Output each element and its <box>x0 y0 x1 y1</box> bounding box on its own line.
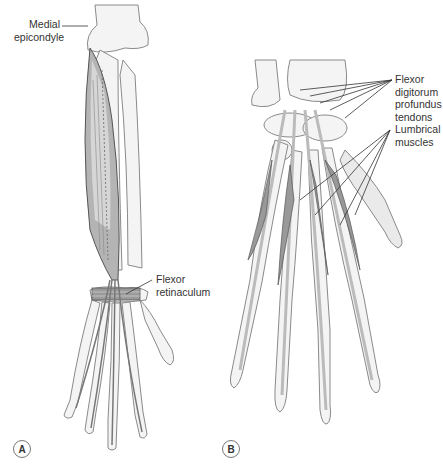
label-line: epicondyle <box>14 31 60 44</box>
label-line: retinaculum <box>156 286 210 299</box>
label-line: digitorum <box>395 86 442 99</box>
label-flexor-retinaculum: Flexor retinaculum <box>156 273 210 298</box>
label-medial-epicondyle: Medial epicondyle <box>24 18 60 43</box>
label-line: profundus <box>395 98 442 111</box>
panel-b-badge: B <box>222 440 240 458</box>
panel-a-badge: A <box>13 440 31 458</box>
label-lumbrical-muscles: Lumbrical muscles <box>395 123 441 148</box>
illustration <box>0 0 443 465</box>
label-line: tendons <box>395 111 442 124</box>
label-line: Lumbrical <box>395 123 441 136</box>
label-line: Flexor <box>395 73 442 86</box>
label-fdp-tendons: Flexor digitorum profundus tendons <box>395 73 442 123</box>
label-line: Medial <box>24 18 60 31</box>
anatomy-figure: Medial epicondyle Flexor retinaculum Fle… <box>0 0 443 465</box>
label-line: muscles <box>395 136 441 149</box>
label-line: Flexor <box>156 273 210 286</box>
